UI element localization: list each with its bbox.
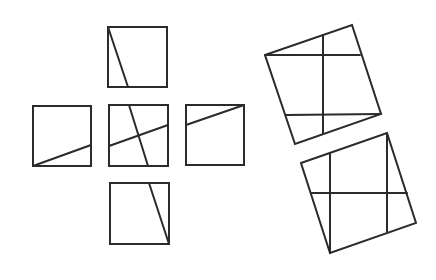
rotated-square-1 xyxy=(265,25,381,144)
square-bottom xyxy=(110,183,169,244)
dividing-line xyxy=(108,27,128,87)
square-outline xyxy=(110,183,169,244)
dividing-line xyxy=(186,105,244,125)
square-outline xyxy=(33,106,91,166)
geometric-diagram xyxy=(0,0,436,280)
rotated-squares-group xyxy=(265,25,416,253)
square-center xyxy=(109,105,168,166)
square-left xyxy=(33,106,91,166)
dividing-line xyxy=(33,145,91,166)
dividing-line xyxy=(149,183,169,244)
cross-arrangement-of-squares xyxy=(33,27,244,244)
dividing-line xyxy=(109,125,168,146)
dissection-line xyxy=(286,114,381,115)
square-top xyxy=(108,27,167,87)
square-right xyxy=(186,105,244,165)
square-outline xyxy=(108,27,167,87)
rotated-square-2 xyxy=(301,133,416,253)
